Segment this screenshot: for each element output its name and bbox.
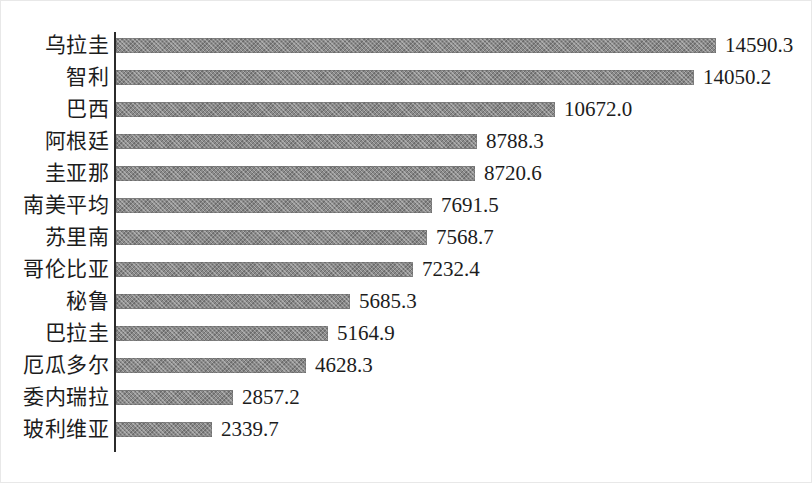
bar-value-label: 10672.0 [564,96,632,122]
bar-category-label: 巴西 [66,96,109,122]
bar-category-label: 秘鲁 [66,288,109,314]
bar-value-label: 7232.4 [422,256,480,282]
bar-value-label: 2339.7 [221,416,279,442]
bar-and-value: 8720.6 [116,160,542,186]
bar-category-label: 玻利维亚 [23,416,109,442]
bar-row: 巴拉圭5164.9 [1,320,812,346]
bar-value-label: 14590.3 [725,32,793,58]
bar [116,262,413,277]
bar-category-label: 阿根廷 [45,128,110,154]
bar-value-label: 5164.9 [337,320,395,346]
bar-value-label: 14050.2 [703,64,771,90]
bar [116,326,328,341]
bar [116,198,432,213]
bar-and-value: 5685.3 [116,288,417,314]
bar-value-label: 5685.3 [359,288,417,314]
bar-and-value: 8788.3 [116,128,544,154]
bar-value-label: 7568.7 [436,224,494,250]
bar-category-label: 圭亚那 [45,160,110,186]
bar-and-value: 5164.9 [116,320,395,346]
bar-row: 阿根廷8788.3 [1,128,812,154]
bar-row: 苏里南7568.7 [1,224,812,250]
bar [116,294,350,309]
bar [116,166,475,181]
bar-row: 圭亚那8720.6 [1,160,812,186]
bar-and-value: 4628.3 [116,352,373,378]
bar-row: 智利14050.2 [1,64,812,90]
bar-and-value: 7568.7 [116,224,494,250]
bar [116,390,233,405]
bar-and-value: 14590.3 [116,32,793,58]
bar [116,422,212,437]
bar-and-value: 10672.0 [116,96,632,122]
bar-category-label: 巴拉圭 [45,320,110,346]
bar-and-value: 14050.2 [116,64,771,90]
bar [116,102,555,117]
bar-category-label: 厄瓜多尔 [23,352,109,378]
bar-row: 秘鲁5685.3 [1,288,812,314]
bar [116,230,427,245]
bar-row: 乌拉圭14590.3 [1,32,812,58]
bar-value-label: 2857.2 [242,384,300,410]
bar-value-label: 8788.3 [486,128,544,154]
bar-and-value: 2339.7 [116,416,279,442]
bar-row: 委内瑞拉2857.2 [1,384,812,410]
bar-category-label: 委内瑞拉 [23,384,109,410]
bar [116,358,306,373]
chart-page: 乌拉圭14590.3智利14050.2巴西10672.0阿根廷8788.3圭亚那… [0,0,812,483]
bar-category-label: 哥伦比亚 [23,256,109,282]
bar-category-label: 智利 [66,64,109,90]
bar-and-value: 2857.2 [116,384,300,410]
bar-and-value: 7232.4 [116,256,480,282]
bar [116,38,716,53]
bar-value-label: 8720.6 [484,160,542,186]
bar-and-value: 7691.5 [116,192,499,218]
bar-row: 南美平均7691.5 [1,192,812,218]
bar-row: 厄瓜多尔4628.3 [1,352,812,378]
bar-value-label: 4628.3 [315,352,373,378]
bar-category-label: 南美平均 [23,192,109,218]
bar-row: 玻利维亚2339.7 [1,416,812,442]
bar-category-label: 乌拉圭 [45,32,110,58]
horizontal-bar-chart: 乌拉圭14590.3智利14050.2巴西10672.0阿根廷8788.3圭亚那… [1,1,812,483]
bar-category-label: 苏里南 [45,224,110,250]
bar-value-label: 7691.5 [441,192,499,218]
bar-row: 巴西10672.0 [1,96,812,122]
bar [116,70,694,85]
bar [116,134,477,149]
bar-row: 哥伦比亚7232.4 [1,256,812,282]
